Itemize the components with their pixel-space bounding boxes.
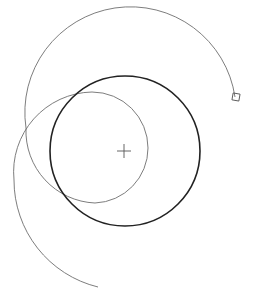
endpoint-grip-icon[interactable] (232, 93, 240, 101)
drawing-canvas[interactable] (0, 0, 256, 299)
center-crosshair-icon (117, 144, 131, 158)
